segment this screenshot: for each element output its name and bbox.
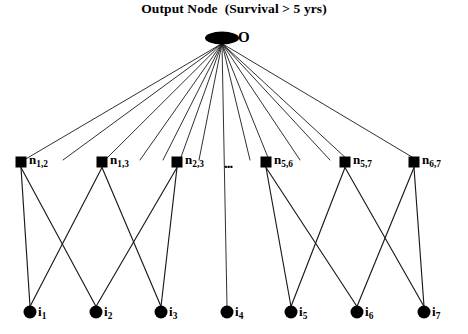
output-edge-3 bbox=[140, 44, 222, 161]
input-node-label-i4: i4 bbox=[235, 305, 243, 318]
output-edge-group bbox=[24, 44, 417, 307]
output-edge-12 bbox=[222, 44, 348, 161]
output-edge-10 bbox=[222, 44, 300, 161]
input-node-label-i1: i1 bbox=[38, 305, 46, 318]
hidden-node-label-n12: n1,2 bbox=[29, 153, 48, 166]
hidden-node-label-n13: n1,3 bbox=[110, 153, 129, 166]
output-node-shape[interactable] bbox=[205, 32, 239, 45]
output-edge-7 bbox=[222, 44, 227, 307]
hidden-node-label-n67: n6,7 bbox=[422, 153, 441, 166]
edge-n23-i2 bbox=[96, 168, 177, 307]
input-node-label-i7: i7 bbox=[432, 305, 440, 318]
hidden-node-n67[interactable] bbox=[409, 157, 420, 168]
hidden-node-n23[interactable] bbox=[172, 157, 183, 168]
hidden-node-label-n57: n5,7 bbox=[353, 153, 372, 166]
hidden-node-n57[interactable] bbox=[340, 157, 351, 168]
edge-n67-i6 bbox=[357, 168, 414, 307]
input-node-label-i2: i2 bbox=[104, 305, 112, 318]
input-node-i1[interactable] bbox=[24, 306, 37, 319]
input-node-i3[interactable] bbox=[155, 306, 168, 319]
input-node-i4[interactable] bbox=[221, 306, 234, 319]
output-edge-13 bbox=[222, 44, 417, 161]
edge-n56-i6 bbox=[266, 168, 357, 307]
output-node-label: O bbox=[238, 30, 250, 45]
edge-n56-i5 bbox=[266, 168, 291, 307]
input-node-i2[interactable] bbox=[90, 306, 103, 319]
input-node-label-i5: i5 bbox=[299, 305, 307, 318]
hidden-edge-group bbox=[21, 168, 424, 307]
hidden-node-label-n56: n5,6 bbox=[274, 153, 293, 166]
network-canvas bbox=[0, 0, 468, 334]
edge-n12-i1 bbox=[21, 168, 30, 307]
hidden-node-n12[interactable] bbox=[16, 157, 27, 168]
output-edge-6 bbox=[199, 44, 222, 161]
input-node-label-i3: i3 bbox=[169, 305, 177, 318]
edge-n13-i3 bbox=[102, 168, 161, 307]
input-node-i6[interactable] bbox=[351, 306, 364, 319]
output-edge-11 bbox=[222, 44, 330, 161]
hidden-layer-ellipsis: ... bbox=[224, 156, 232, 171]
edge-n23-i3 bbox=[161, 168, 177, 307]
input-node-i7[interactable] bbox=[418, 306, 431, 319]
hidden-node-n56[interactable] bbox=[261, 157, 272, 168]
edge-n67-i7 bbox=[414, 168, 424, 307]
hidden-node-label-n23: n2,3 bbox=[185, 153, 204, 166]
output-edge-5 bbox=[180, 44, 222, 161]
output-edge-1 bbox=[63, 44, 222, 161]
edge-n13-i1 bbox=[30, 168, 102, 307]
edge-n12-i2 bbox=[21, 168, 96, 307]
hidden-node-n13[interactable] bbox=[97, 157, 108, 168]
output-node-group bbox=[205, 32, 239, 45]
edge-n57-i5 bbox=[291, 168, 345, 307]
edge-n57-i7 bbox=[345, 168, 424, 307]
input-node-i5[interactable] bbox=[285, 306, 298, 319]
input-node-label-i6: i6 bbox=[365, 305, 373, 318]
network-diagram: Output Node (Survival > 5 yrs) On1,2n1,3… bbox=[0, 0, 468, 334]
